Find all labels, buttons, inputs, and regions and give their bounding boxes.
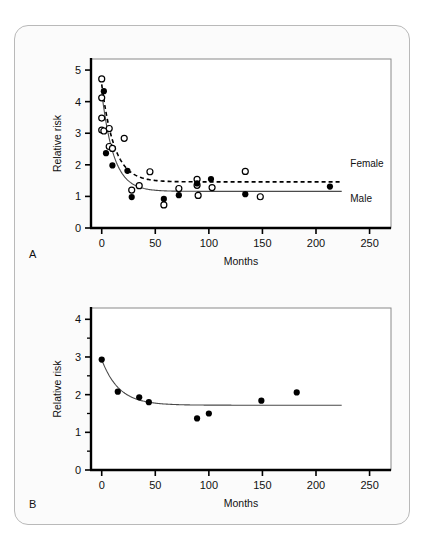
x-tick-label: 0 (99, 237, 105, 249)
data-point-female (99, 76, 105, 82)
data-point-male (103, 150, 109, 156)
panel-b-plot: 01234050100150200250MonthsRelative risk (15, 276, 411, 526)
y-tick-label: 5 (75, 64, 81, 76)
x-tick-label: 200 (307, 479, 325, 491)
figure-frame: 012345050100150200250FemaleMaleMonthsRel… (14, 25, 410, 525)
x-axis-title: Months (224, 255, 258, 267)
x-tick-label: 250 (360, 479, 378, 491)
panel-a-plot: 012345050100150200250FemaleMaleMonthsRel… (15, 26, 411, 276)
x-tick-label: 50 (149, 479, 161, 491)
data-point-male (208, 176, 214, 182)
y-tick-label: 3 (75, 127, 81, 139)
data-point-overall (258, 398, 264, 404)
y-tick-label: 0 (75, 222, 81, 234)
y-tick-label: 1 (75, 426, 81, 438)
panel-a: 012345050100150200250FemaleMaleMonthsRel… (15, 26, 411, 276)
data-point-male (101, 88, 107, 94)
plot-frame (91, 308, 391, 470)
data-point-female (147, 169, 153, 175)
data-point-female (99, 95, 105, 101)
data-point-male (124, 168, 130, 174)
data-point-female (242, 168, 248, 174)
x-tick-label: 150 (253, 237, 271, 249)
data-point-overall (206, 410, 212, 416)
data-point-female (257, 194, 263, 200)
data-point-female (136, 183, 142, 189)
data-point-male (194, 180, 200, 186)
y-tick-label: 1 (75, 190, 81, 202)
y-axis-title: Relative risk (51, 114, 63, 172)
data-point-female (121, 135, 127, 141)
data-point-female (129, 187, 135, 193)
y-tick-label: 0 (75, 464, 81, 476)
data-point-male (327, 184, 333, 190)
data-point-female (209, 185, 215, 191)
panel-a-label: A (29, 248, 36, 260)
data-point-overall (146, 399, 152, 405)
data-point-female (161, 202, 167, 208)
data-point-male (129, 194, 135, 200)
x-tick-label: 100 (200, 237, 218, 249)
y-tick-label: 2 (75, 389, 81, 401)
y-axis-title: Relative risk (51, 360, 63, 418)
panel-b-label: B (29, 498, 36, 510)
x-tick-label: 100 (200, 479, 218, 491)
y-tick-label: 4 (75, 313, 81, 325)
y-tick-label: 2 (75, 159, 81, 171)
x-tick-label: 0 (99, 479, 105, 491)
data-point-male (242, 191, 248, 197)
data-point-overall (136, 394, 142, 400)
data-point-male (176, 192, 182, 198)
data-point-female (195, 192, 201, 198)
plot-frame (91, 59, 391, 228)
x-tick-label: 50 (149, 237, 161, 249)
x-tick-label: 200 (307, 237, 325, 249)
data-point-overall (194, 415, 200, 421)
data-point-female (109, 145, 115, 151)
x-tick-label: 250 (360, 237, 378, 249)
data-point-overall (294, 389, 300, 395)
x-tick-label: 150 (253, 479, 271, 491)
annotation-female: Female (350, 158, 384, 169)
y-tick-label: 4 (75, 96, 81, 108)
data-point-female (99, 115, 105, 121)
panel-b: 01234050100150200250MonthsRelative risk … (15, 276, 411, 526)
data-point-overall (115, 389, 121, 395)
data-point-female (106, 125, 112, 131)
y-tick-label: 3 (75, 351, 81, 363)
data-point-overall (99, 357, 105, 363)
x-axis-title: Months (224, 497, 258, 509)
data-point-female (176, 186, 182, 192)
data-point-male (161, 196, 167, 202)
annotation-male: Male (350, 193, 372, 204)
data-point-male (109, 162, 115, 168)
